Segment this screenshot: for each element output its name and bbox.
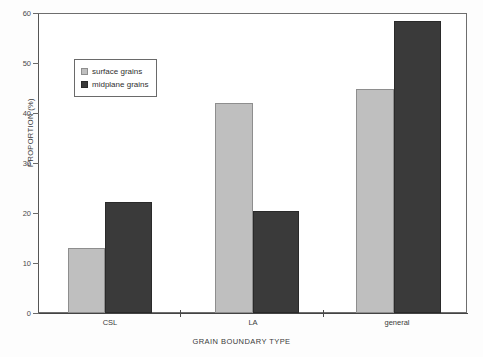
- bar-la-midplane: [253, 211, 299, 313]
- legend-item-surface-grains: surface grains: [81, 65, 148, 78]
- y-tick-label-20: 20: [5, 209, 31, 218]
- bar-la-surface: [215, 103, 253, 313]
- y-tick-0: [33, 313, 39, 314]
- y-tick-label-30: 30: [5, 159, 31, 168]
- y-tick-label-10: 10: [5, 259, 31, 268]
- bar-chart-figure: PROPORTION (%) 60 50 40 30 20 10 0 CSL L…: [0, 0, 483, 357]
- x-tick-label-la: LA: [193, 318, 313, 327]
- dark-gray-swatch-icon: [81, 81, 88, 88]
- x-tick-label-general: general: [337, 318, 457, 327]
- x-tick-separator-1: [180, 310, 181, 317]
- x-tick-label-csl: CSL: [50, 318, 170, 327]
- legend-item-midplane-grains: midplane grains: [81, 78, 148, 91]
- y-tick-label-60: 60: [5, 9, 31, 18]
- legend: surface grains midplane grains: [74, 59, 157, 97]
- light-gray-swatch-icon: [81, 68, 88, 75]
- legend-label-midplane-grains: midplane grains: [92, 80, 148, 89]
- bar-general-midplane: [394, 21, 441, 313]
- x-tick-separator-2: [323, 310, 324, 317]
- y-tick-label-40: 40: [5, 109, 31, 118]
- y-tick-label-50: 50: [5, 59, 31, 68]
- bar-general-surface: [356, 89, 394, 313]
- bar-csl-surface: [68, 248, 105, 313]
- legend-label-surface-grains: surface grains: [92, 67, 142, 76]
- x-axis-title: GRAIN BOUNDARY TYPE: [0, 337, 483, 346]
- bar-csl-midplane: [105, 202, 152, 313]
- y-axis-title: PROPORTION (%): [26, 63, 35, 203]
- x-axis-line: [38, 313, 468, 314]
- y-tick-label-0: 0: [5, 309, 31, 318]
